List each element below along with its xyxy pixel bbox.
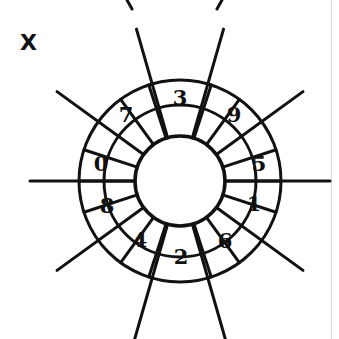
figure-canvas: 0739516248 X: [0, 0, 339, 339]
sector-label-3: 3: [173, 85, 188, 110]
sector-label-8: 8: [100, 193, 115, 218]
spokes-group: [30, 29, 330, 339]
sector-label-1: 1: [247, 191, 262, 216]
fragment-top-left: [127, 0, 132, 9]
wheel-diagram-svg: 0739516248 X: [0, 0, 339, 339]
fragment-top-right: [217, 0, 222, 9]
inner-circle: [135, 136, 225, 226]
sector-label-5: 5: [252, 151, 267, 176]
sector-label-0: 0: [94, 151, 109, 176]
sector-label-2: 2: [174, 244, 189, 269]
figure-label-x: X: [20, 30, 37, 55]
sector-label-6: 6: [218, 228, 233, 253]
sector-labels-group: 0739516248: [94, 85, 267, 269]
sector-label-7: 7: [119, 102, 134, 127]
cropped-fragments-group: [127, 0, 222, 9]
sector-label-9: 9: [227, 102, 242, 127]
sector-label-4: 4: [133, 227, 148, 252]
